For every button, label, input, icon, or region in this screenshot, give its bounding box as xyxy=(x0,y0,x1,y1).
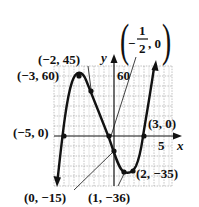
point-m3-60 xyxy=(76,73,81,78)
y-axis-label: y xyxy=(99,50,107,65)
point-m2-45 xyxy=(88,88,93,93)
label-m5-0: (−5, 0) xyxy=(13,125,49,140)
cubic-curve xyxy=(58,68,155,180)
curve-end-arrow-icon xyxy=(54,176,62,187)
y-axis-arrow-icon xyxy=(111,54,118,63)
x-axis-label: x xyxy=(176,138,184,153)
y-tick-label: 60 xyxy=(117,68,130,83)
svg-text:1: 1 xyxy=(139,23,146,38)
svg-text:, 0: , 0 xyxy=(148,36,161,51)
label-m2-45: (−2, 45) xyxy=(38,52,80,67)
label-0-m15: (0, −15) xyxy=(24,190,66,205)
label-mhalf-0: ( − 1 2 , 0 ) xyxy=(120,15,171,67)
label-2-m35: (2, −35) xyxy=(136,166,178,181)
label-3-0: (3, 0) xyxy=(148,116,176,131)
point-1-m36 xyxy=(121,169,126,174)
point-3-0 xyxy=(141,133,146,138)
point-0-m15 xyxy=(111,148,116,153)
label-m3-60: (−3, 60) xyxy=(17,68,59,83)
point-mhalf-0 xyxy=(106,133,111,138)
graph: (−2, 45) (−3, 60) (−5, 0) (3, 0) (0, −15… xyxy=(0,0,199,207)
point-2-m35 xyxy=(130,168,135,173)
svg-text:2: 2 xyxy=(139,41,146,56)
svg-text:): ) xyxy=(162,15,171,67)
label-1-m36: (1, −36) xyxy=(88,190,130,205)
svg-text:−: − xyxy=(128,36,135,51)
curve-start-arrow-icon xyxy=(152,60,159,71)
point-m5-0 xyxy=(61,133,66,138)
x-tick-label: 5 xyxy=(158,138,165,153)
